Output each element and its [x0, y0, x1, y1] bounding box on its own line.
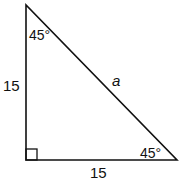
right-angle-marker: [26, 149, 37, 160]
hypotenuse-label: a: [112, 73, 120, 88]
vertical-leg-label: 15: [3, 78, 20, 93]
horizontal-leg-label: 15: [90, 165, 107, 180]
top-angle-label: 45°: [29, 28, 50, 42]
bottom-right-angle-label: 45°: [140, 146, 161, 160]
